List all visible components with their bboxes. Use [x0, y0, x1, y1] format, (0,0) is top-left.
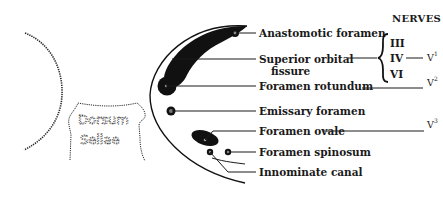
nerve-v2: V: [426, 77, 434, 88]
dorsum-label-line1: Dorsum: [78, 112, 129, 127]
nerve-vi: VI: [389, 68, 403, 80]
skull-base-foramina-diagram: Dorsum Sellae Anastomotic foramen Superi…: [0, 0, 443, 199]
label-superior-orbital-line2: fissure: [271, 65, 311, 77]
label-foramen-spinosum: Foramen spinosum: [259, 146, 371, 158]
dorsum-label-line2: Sellae: [80, 132, 119, 147]
foramen-ovale-shape: [190, 127, 221, 149]
nerve-iv: IV: [390, 52, 404, 64]
dotted-arc-outline: [24, 33, 62, 150]
label-emissary-foramen: Emissary foramen: [259, 105, 366, 117]
svg-text:3: 3: [434, 117, 438, 124]
nerve-brace: [378, 34, 388, 82]
nerve-iii: III: [390, 37, 405, 49]
label-superior-orbital-line1: Superior orbital: [259, 53, 353, 65]
label-innominate-canal: Innominate canal: [259, 166, 363, 178]
svg-text:1: 1: [434, 50, 438, 57]
nerve-v3: V: [426, 119, 434, 130]
svg-text:2: 2: [434, 75, 438, 82]
label-anastomotic-foramen: Anastomotic foramen: [258, 27, 386, 39]
nerve-v1: V: [426, 52, 434, 63]
label-foramen-rotundum: Foramen rotundum: [259, 80, 373, 92]
nerves-header: NERVES: [392, 13, 441, 24]
